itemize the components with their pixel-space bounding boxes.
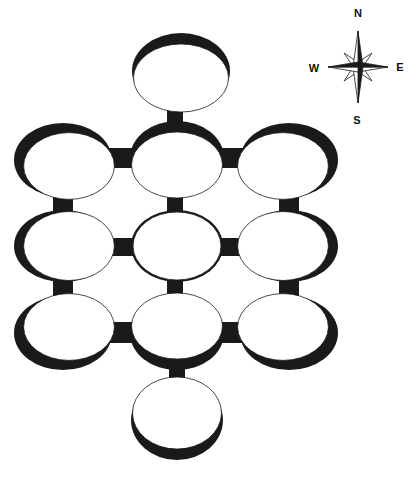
room-interior	[132, 293, 223, 359]
room-interior	[24, 133, 115, 200]
room-interior	[238, 212, 329, 281]
compass-east-label: E	[396, 61, 403, 73]
compass-star-icon	[328, 31, 388, 103]
room-row1-right	[238, 123, 338, 199]
room-row1-left	[14, 123, 114, 199]
room-interior	[134, 44, 229, 112]
room-row3-left	[14, 294, 114, 370]
room-bottom	[131, 377, 223, 460]
compass-rose-icon: N S E W	[309, 7, 404, 126]
compass-west-label: W	[309, 62, 320, 74]
room-row1-center	[130, 121, 224, 198]
room-interior	[238, 133, 329, 200]
room-top	[132, 33, 230, 112]
room-row2-right	[238, 210, 338, 282]
room-interior	[238, 294, 329, 361]
room-row3-right	[238, 294, 338, 370]
compass-north-label: N	[354, 7, 362, 19]
room-interior	[133, 212, 221, 280]
room-row2-left	[14, 210, 114, 282]
room-interior	[132, 132, 223, 198]
room-interior	[24, 212, 115, 281]
room-row3-center	[130, 293, 224, 370]
room-interior	[24, 294, 115, 361]
rooms-layer	[14, 33, 338, 460]
room-row2-center	[131, 210, 223, 282]
room-grid-diagram: N S E W	[0, 0, 417, 478]
compass-south-label: S	[353, 114, 360, 126]
room-interior	[133, 377, 222, 449]
